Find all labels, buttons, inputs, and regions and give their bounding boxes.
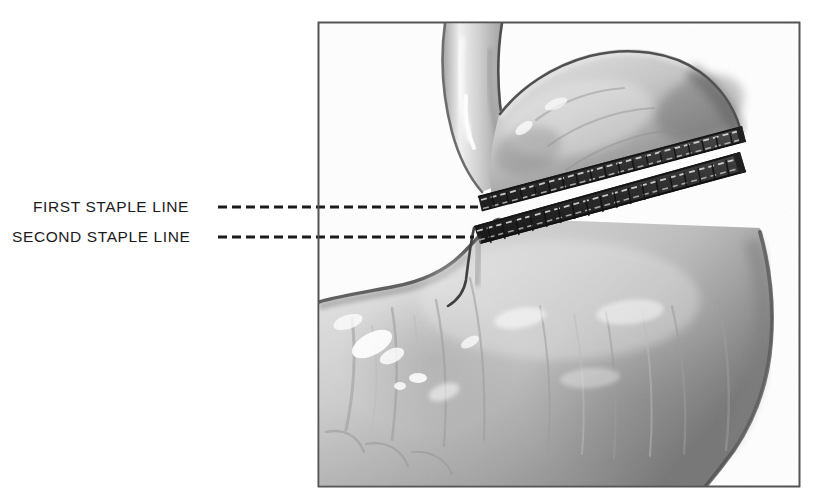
- label-second-staple-line: SECOND STAPLE LINE: [12, 229, 190, 245]
- stomach-illustration: [0, 0, 828, 491]
- figure-root: FIRST STAPLE LINE SECOND STAPLE LINE: [0, 0, 828, 491]
- label-first-staple-line: FIRST STAPLE LINE: [33, 199, 189, 215]
